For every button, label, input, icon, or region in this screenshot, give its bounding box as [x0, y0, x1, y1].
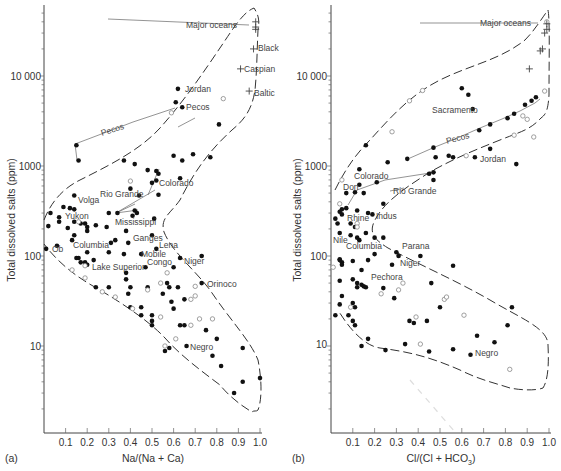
data-point-open: [379, 292, 383, 296]
data-point: [128, 285, 133, 290]
figure: 0.10.20.30.40.50.60.70.80.91.0 10 000 10…: [0, 0, 561, 471]
data-point: [383, 348, 388, 353]
data-point: [76, 158, 81, 163]
data-point-open: [462, 313, 466, 317]
data-point: [161, 292, 166, 297]
data-point: [466, 92, 471, 97]
data-point: [385, 160, 390, 165]
data-point: [359, 268, 364, 273]
x-ticks: 0.10.20.30.40.50.60.70.80.91.0: [59, 428, 268, 448]
data-point: [94, 285, 99, 290]
data-point: [107, 250, 112, 255]
data-point: [514, 162, 519, 167]
data-point-open: [193, 284, 197, 288]
data-point-open: [331, 265, 335, 269]
data-point: [85, 225, 90, 230]
data-point: [429, 281, 434, 286]
data-point: [337, 279, 342, 284]
data-point-open: [521, 114, 525, 118]
data-point: [94, 223, 99, 228]
faint-mark: [410, 380, 455, 432]
data-point: [46, 224, 51, 229]
x-tick-label: 0.7: [477, 437, 491, 448]
data-point: [72, 193, 77, 198]
data-point-open: [165, 271, 169, 275]
data-point: [191, 152, 196, 157]
data-point: [451, 347, 456, 352]
data-point: [182, 323, 187, 328]
y-tick-label: 100: [24, 251, 41, 262]
data-point: [199, 281, 204, 286]
data-point: [171, 306, 176, 311]
data-point: [425, 319, 430, 324]
x-tick-label: 1.0: [253, 437, 267, 448]
data-point-open: [169, 111, 173, 115]
panel-a: 0.10.20.30.40.50.60.70.80.91.0 10 000 10…: [5, 5, 280, 464]
y-minor-ticks: [327, 13, 331, 409]
data-point: [219, 364, 224, 369]
data-point-open: [174, 337, 178, 341]
panel-label: (a): [5, 452, 18, 464]
data-point: [412, 321, 417, 326]
data-point: [44, 247, 49, 252]
data-point: [139, 313, 144, 318]
data-point: [122, 252, 127, 257]
data-point-open: [420, 88, 424, 92]
data-point: [167, 285, 172, 290]
data-point: [353, 323, 358, 328]
data-point: [337, 257, 342, 262]
data-point: [135, 211, 140, 216]
data-point: [355, 285, 360, 290]
x-tick-label: 0.8: [210, 437, 224, 448]
data-point-open: [444, 295, 448, 299]
data-point: [340, 207, 345, 212]
data-point-open: [158, 281, 162, 285]
label-parana: Parana: [402, 241, 430, 251]
data-point: [85, 250, 90, 255]
data-point-open: [542, 89, 546, 93]
data-point: [451, 263, 456, 268]
data-point: [122, 158, 127, 163]
data-point: [176, 285, 181, 290]
data-point-open: [70, 268, 74, 272]
data-point-open: [128, 179, 132, 183]
data-point-open: [158, 315, 162, 319]
label-jordan: Jordan: [480, 154, 506, 164]
data-point: [534, 95, 539, 100]
data-point: [431, 145, 436, 150]
data-point: [150, 181, 155, 186]
data-point: [477, 128, 482, 133]
data-point: [351, 319, 356, 324]
label-pecos-end: Pecos: [186, 102, 210, 112]
x-tick-label: 0.1: [59, 437, 73, 448]
data-point: [505, 323, 510, 328]
x-tick-label: 0.2: [368, 437, 382, 448]
data-point-open: [189, 297, 193, 301]
data-point: [232, 391, 237, 396]
x-tick-label: 0.4: [411, 437, 425, 448]
data-point: [433, 155, 438, 160]
data-point: [72, 233, 77, 238]
label-niger: Niger: [184, 256, 204, 266]
label-mississippi: Mississippi: [115, 217, 156, 227]
data-point: [333, 216, 338, 221]
data-point-open: [338, 202, 342, 206]
data-point: [182, 297, 187, 302]
data-point: [381, 235, 386, 240]
data-point: [65, 226, 70, 231]
label-pecos: Pecos: [445, 130, 470, 146]
data-point: [204, 328, 209, 333]
data-point: [124, 277, 129, 282]
cross-marker: [526, 65, 533, 72]
x-tick-label: 0.5: [145, 437, 159, 448]
y-tick-label: 100: [310, 251, 327, 262]
data-point: [104, 225, 109, 230]
data-point-open: [390, 130, 394, 134]
data-point: [344, 206, 349, 211]
data-point: [169, 299, 174, 304]
label-rio-grande: Rio Grande: [393, 186, 437, 196]
data-point: [76, 256, 81, 261]
data-point: [156, 171, 161, 176]
label-indus: Indus: [376, 211, 397, 221]
data-point: [355, 281, 360, 286]
